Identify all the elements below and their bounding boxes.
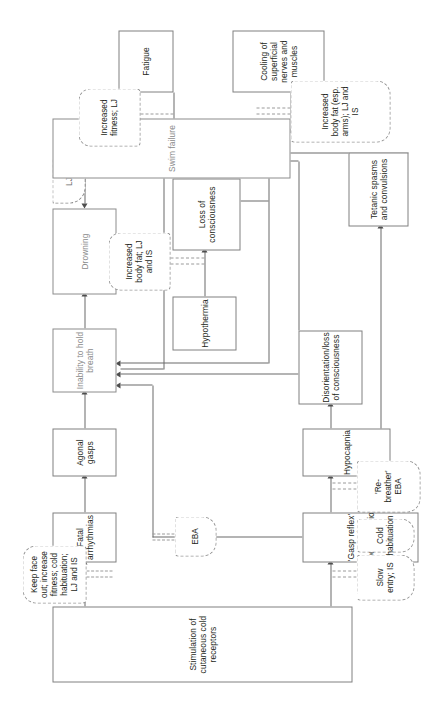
node-label: Fatigue xyxy=(140,47,150,76)
annotation-rebreather-eba: 'Re-breather' EBA xyxy=(356,460,420,512)
leader-cold-habituation xyxy=(332,570,356,571)
node-label: Hypocapnia xyxy=(341,429,351,474)
node-label: Tetanic spasms and convulsions xyxy=(368,155,389,223)
link-hypocapnia-to-tetanic xyxy=(380,226,381,448)
link-agonal-gasps-to-inability xyxy=(84,392,85,428)
node-inability-to-hold-breath[interactable]: Inability to hold breath xyxy=(52,328,116,392)
leader-rebreather-a xyxy=(332,488,356,489)
node-label: Swim failure xyxy=(166,125,176,172)
leader-body-fat-arms-a xyxy=(256,113,290,114)
link-hypocapnia-to-disorientation xyxy=(330,404,331,428)
annotation-increased-body-fat: Increased body fat; LJ and IS xyxy=(108,232,170,290)
arrowhead-drowning-right xyxy=(81,203,87,208)
annotation-label: Slow entry; IS xyxy=(375,558,395,596)
node-label: Agonal gasps xyxy=(74,431,95,473)
link-gasp-reflex-to-hypocapnia xyxy=(330,476,331,512)
link-stimulation-to-gasp-reflex xyxy=(330,562,331,606)
annotation-label: Increased fitness; LJ xyxy=(99,92,119,142)
leader-keep-face-a xyxy=(86,576,112,577)
link-inability-down xyxy=(120,368,163,369)
link-gasp-reflex-riser xyxy=(120,384,152,385)
node-label: Drowning xyxy=(79,233,89,269)
annotation-increased-fitness: Increased fitness; LJ xyxy=(78,88,140,146)
node-stimulation-of-cutaneous-cold-receptors[interactable]: Stimulation of cutaneous cold receptors xyxy=(52,606,352,682)
node-drowning[interactable]: Drowning xyxy=(52,208,116,294)
annotation-increased-body-fat-arms: Increased body fat (esp. arms); LJ and I… xyxy=(290,80,390,142)
annotation-label: Keep face out; increase fitness; cold ha… xyxy=(29,549,78,599)
annotation-label: Increased body fat (esp. arms); LJ and I… xyxy=(320,84,359,138)
node-fatigue[interactable]: Fatigue xyxy=(118,30,173,92)
link-inability-to-drowning xyxy=(84,294,85,328)
node-tetanic-spasms-and-convulsions[interactable]: Tetanic spasms and convulsions xyxy=(348,152,408,226)
node-loss-of-consciousness[interactable]: Loss of consciousness xyxy=(172,178,240,250)
link-loss-consciousness-trunk xyxy=(240,200,268,201)
node-label: Hypothermia xyxy=(199,299,209,348)
annotation-label: Increased body fat; LJ and IS xyxy=(124,236,154,286)
flowchart-rotated-layer: Stimulation of cutaneous cold receptors … xyxy=(0,0,441,718)
leader-slow-entry xyxy=(332,576,356,577)
annotation-eba: EBA xyxy=(174,516,216,556)
annotation-label: Cold habituation xyxy=(375,515,395,555)
link-disorientation-to-swim-failure xyxy=(298,161,299,330)
node-label: Stimulation of cutaneous cold receptors xyxy=(187,609,218,679)
leader-eba-a xyxy=(152,539,174,540)
leader-fitness-b xyxy=(140,113,173,114)
leader-eba-b xyxy=(152,533,174,534)
link-fatal-arrhythmias-to-agonal-gasps xyxy=(84,476,85,512)
node-disorientation-loss-of-consciousness[interactable]: Disorientation/loss of consciousness xyxy=(298,330,362,404)
link-bus-down-to-inability xyxy=(120,362,268,363)
annotation-label: 'Re-breather' EBA xyxy=(373,464,403,508)
link-gasp-reflex-to-inability xyxy=(152,385,153,537)
node-agonal-gasps[interactable]: Agonal gasps xyxy=(52,428,116,476)
leader-body-fat-arms-b xyxy=(256,107,290,108)
leader-keep-face-b xyxy=(86,570,112,571)
annotation-keep-face-out: Keep face out; increase fitness; cold ha… xyxy=(22,545,86,603)
node-label: Loss of consciousness xyxy=(196,181,217,247)
link-loss-consciousness-bus xyxy=(268,149,269,363)
annotation-cold-habituation: Cold habituation xyxy=(356,518,414,552)
node-label: Inability to hold breath xyxy=(74,331,95,389)
leader-body-fat-a xyxy=(170,257,204,258)
diagram-canvas: Stimulation of cutaneous cold receptors … xyxy=(0,0,441,718)
leader-body-fat-b xyxy=(170,263,204,264)
node-label: Disorientation/loss of consciousness xyxy=(320,332,341,402)
link-disorientation-to-inability xyxy=(120,373,298,374)
annotation-spacer xyxy=(356,593,358,599)
annotation-label: EBA xyxy=(190,528,200,544)
annotation-slow-entry: Slow entry; IS xyxy=(356,554,414,600)
node-hypothermia[interactable]: Hypothermia xyxy=(172,296,236,350)
leader-rebreather-b xyxy=(332,482,356,483)
